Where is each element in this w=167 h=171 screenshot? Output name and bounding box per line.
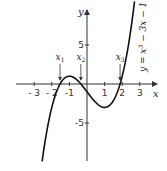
x-tick-label: - 3 (28, 88, 40, 98)
x-tick-label: 2 (119, 88, 125, 98)
x-tick-label: 3 (137, 88, 143, 98)
root-label: x2 (76, 52, 85, 63)
root-label: x1 (56, 52, 65, 63)
root-label: x3 (116, 52, 125, 63)
cubic-curve (42, 1, 134, 161)
x-tick-label: -1 (65, 88, 74, 98)
equation-label: y = x3 − 3x − 1 (137, 2, 148, 73)
x-axis-label: x (153, 88, 159, 99)
x-tick-label: 1 (102, 88, 108, 98)
y-tick-label: 5 (78, 40, 84, 50)
root-markers: x1x2x3 (56, 52, 125, 80)
y-tick-label: -5 (75, 118, 84, 128)
cubic-graph: x y - 3- 2-11235-5 x1x2x3 y = x3 − 3x − … (0, 0, 167, 171)
y-axis-label: y (77, 6, 84, 17)
